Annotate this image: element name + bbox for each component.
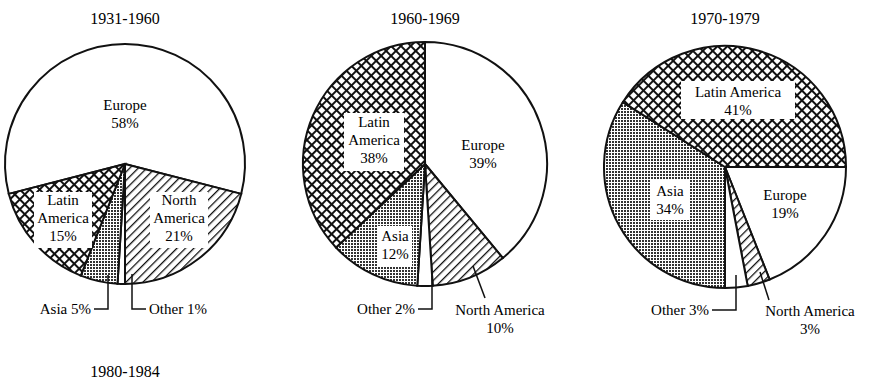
pie-chart-1960-1969: 1960-1969 Europe 39% Latin America 38% A… bbox=[303, 10, 547, 336]
label-latin-value: 15% bbox=[49, 228, 77, 244]
chart-title: 1980-1984 bbox=[90, 363, 159, 380]
pie-chart-1931-1960: 1931-1960 Europe 58% North America 21% L… bbox=[5, 10, 245, 317]
label-na-name: North America bbox=[765, 303, 855, 319]
label-latin-1: Latin bbox=[358, 114, 390, 130]
label-asia-name: Asia bbox=[381, 228, 409, 244]
label-latin-name: Latin America bbox=[695, 84, 782, 100]
label-latin-1: Latin bbox=[47, 192, 79, 208]
label-other: Other 1% bbox=[149, 301, 207, 317]
label-other: Other 2% bbox=[357, 301, 415, 317]
label-asia-value: 12% bbox=[381, 246, 409, 262]
label-europe-name: Europe bbox=[461, 137, 505, 153]
label-na-value: 10% bbox=[486, 320, 514, 336]
label-latin-2: America bbox=[37, 210, 89, 226]
label-europe-name: Europe bbox=[763, 187, 807, 203]
chart-title: 1931-1960 bbox=[90, 10, 159, 27]
label-europe-value: 39% bbox=[469, 155, 497, 171]
label-na-2: America bbox=[153, 210, 205, 226]
label-europe-name: Europe bbox=[103, 97, 147, 113]
pie-chart-1980-1984: 1980-1984 bbox=[90, 363, 159, 380]
chart-title: 1970-1979 bbox=[690, 10, 759, 27]
chart-title: 1960-1969 bbox=[390, 10, 459, 27]
label-europe-value: 19% bbox=[771, 205, 799, 221]
pie-charts-figure: 1931-1960 Europe 58% North America 21% L… bbox=[0, 0, 874, 383]
pie-chart-1970-1979: 1970-1979 Latin America 41% Asia 34% Eur… bbox=[604, 10, 855, 337]
label-na-name: North America bbox=[455, 302, 545, 318]
label-latin-value: 41% bbox=[724, 102, 752, 118]
label-asia-name: Asia bbox=[656, 183, 684, 199]
label-latin-2: America bbox=[348, 132, 400, 148]
label-europe-value: 58% bbox=[111, 115, 139, 131]
label-na-1: North bbox=[162, 192, 197, 208]
label-other: Other 3% bbox=[651, 302, 709, 318]
label-latin-value: 38% bbox=[360, 150, 388, 166]
label-asia-value: 34% bbox=[656, 201, 684, 217]
label-na-value: 3% bbox=[800, 321, 820, 337]
label-asia: Asia 5% bbox=[40, 301, 91, 317]
label-na-value: 21% bbox=[165, 228, 193, 244]
